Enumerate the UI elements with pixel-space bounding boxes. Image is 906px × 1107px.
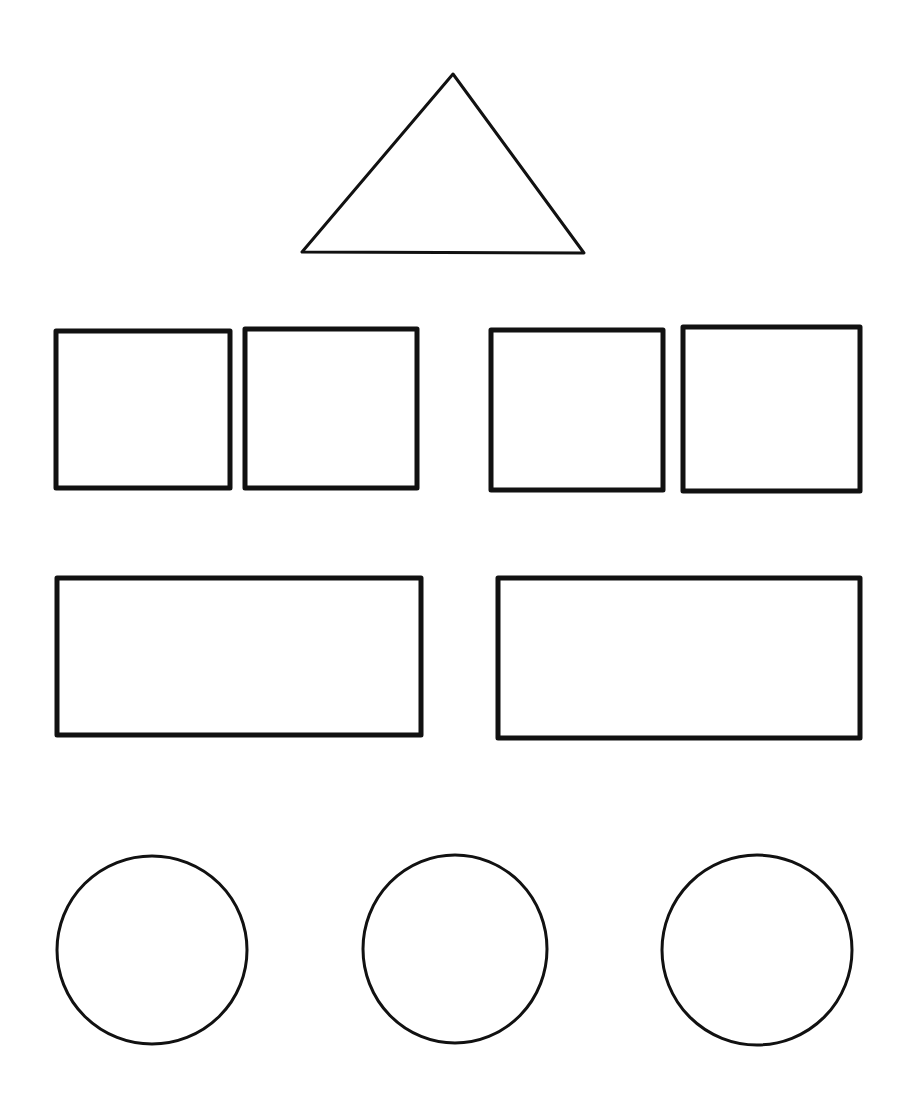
rectangle-shape-2 xyxy=(498,578,860,738)
circle-shape-3 xyxy=(662,855,852,1045)
circle-shape-1 xyxy=(57,856,247,1044)
triangle-group xyxy=(302,74,584,253)
square-shape-3 xyxy=(491,330,663,490)
triangle-shape xyxy=(302,74,584,253)
square-shape-2 xyxy=(245,329,417,488)
sketch-canvas xyxy=(0,0,906,1107)
circle-shape-2 xyxy=(363,855,547,1043)
circles-row xyxy=(57,855,852,1045)
squares-row xyxy=(56,327,860,491)
square-shape-4 xyxy=(683,327,860,491)
square-shape-1 xyxy=(56,331,230,488)
rectangle-shape-1 xyxy=(57,578,421,735)
rectangles-row xyxy=(57,578,860,738)
